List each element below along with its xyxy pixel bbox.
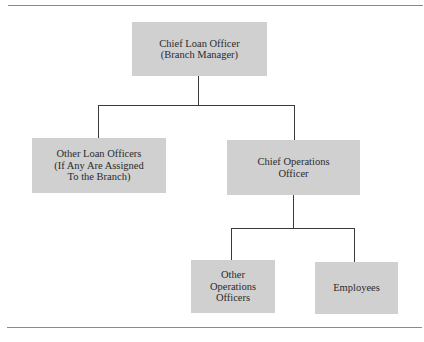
node-employees: Employees — [315, 262, 398, 314]
node-label: Chief Loan Officer (Branch Manager) — [159, 38, 239, 61]
node-label: Other Operations Officers — [210, 269, 256, 304]
bottom-rule — [7, 327, 422, 328]
node-label: Chief Operations Officer — [257, 156, 329, 179]
connector-line — [231, 228, 232, 260]
node-other-loan-officers: Other Loan Officers (If Any Are Assigned… — [32, 138, 166, 193]
node-other-operations-officers: Other Operations Officers — [191, 260, 275, 313]
node-chief-operations-officer: Chief Operations Officer — [227, 140, 360, 195]
node-label: Employees — [333, 282, 380, 294]
top-rule — [8, 5, 423, 6]
node-label: Other Loan Officers (If Any Are Assigned… — [54, 148, 144, 183]
node-chief-loan-officer: Chief Loan Officer (Branch Manager) — [132, 22, 267, 76]
connector-line — [231, 228, 355, 229]
connector-line — [293, 195, 294, 229]
connector-line — [294, 105, 295, 140]
connector-line — [98, 105, 295, 106]
connector-line — [98, 105, 99, 138]
connector-line — [354, 228, 355, 262]
connector-line — [198, 76, 199, 106]
